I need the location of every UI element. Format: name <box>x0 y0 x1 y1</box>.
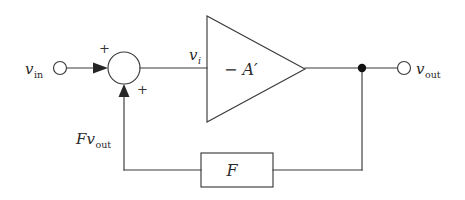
output-junction-dot <box>358 64 366 72</box>
feedback-signal-label: Fvout <box>75 130 111 150</box>
summing-node <box>108 52 140 84</box>
amplifier-gain-label: − A′ <box>224 60 258 79</box>
feedback-amplifier-diagram: vin + + vi − A′ F Fvout vout <box>0 0 465 200</box>
arrowhead-feedback-into-summing-node <box>119 84 130 97</box>
summing-node-plus-top: + <box>99 41 110 56</box>
input-terminal <box>54 62 67 75</box>
output-terminal <box>398 62 411 75</box>
feedback-block-label: F <box>225 161 238 180</box>
input-signal-label: vin <box>25 60 43 80</box>
amplifier-input-signal-label: vi <box>189 46 201 66</box>
summing-node-plus-bottom: + <box>137 82 148 97</box>
output-signal-label: vout <box>416 60 441 80</box>
circuit-canvas: vin + + vi − A′ F Fvout vout <box>0 0 465 200</box>
arrowhead-input-to-summing-node <box>93 63 108 74</box>
